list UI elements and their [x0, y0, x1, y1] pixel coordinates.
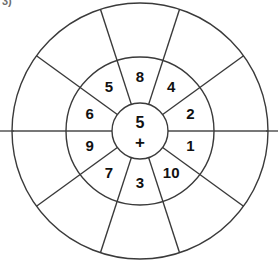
inner-ring-number-0: 1 — [186, 137, 194, 154]
inner-ring-number-3: 7 — [105, 164, 113, 181]
center-operator: + — [135, 133, 145, 152]
inner-ring-number-8: 4 — [167, 78, 176, 95]
inner-ring-number-9: 2 — [186, 105, 194, 122]
inner-ring-number-1: 10 — [163, 164, 180, 181]
inner-ring-number-5: 6 — [85, 105, 93, 122]
inner-ring-number-6: 5 — [105, 78, 113, 95]
addition-wheel-diagram: 11037965842 5 + — [0, 0, 278, 268]
center-number: 5 — [136, 114, 145, 131]
inner-ring-number-4: 9 — [85, 137, 93, 154]
math-wheel-worksheet: 3) 11037965842 5 + — [0, 0, 278, 268]
inner-ring-number-7: 8 — [136, 68, 144, 85]
inner-ring-number-2: 3 — [136, 174, 144, 191]
